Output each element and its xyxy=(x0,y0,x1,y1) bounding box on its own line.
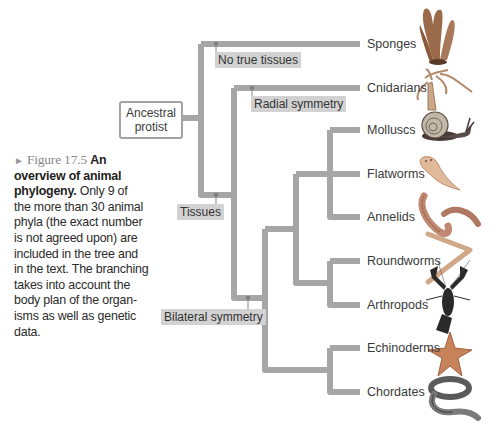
trait-bilateral-symmetry: Bilateral symmetry xyxy=(161,309,266,325)
caption-line: in the text. The branching xyxy=(14,262,176,278)
taxon-chordates: Chordates xyxy=(367,385,425,399)
caption-line: included in the tree and xyxy=(14,247,176,263)
caption-line-3-rest: Only 9 of xyxy=(76,184,127,198)
root-label-line1: Ancestral xyxy=(126,106,176,120)
triangle-marker-icon: ► xyxy=(14,155,24,166)
trait-radial-symmetry: Radial symmetry xyxy=(251,96,346,112)
taxon-annelids: Annelids xyxy=(367,210,415,224)
caption-line: body plan of the organ- xyxy=(14,293,176,309)
protostome-vertical xyxy=(296,174,330,283)
trait-no-true-tissues: No true tissues xyxy=(215,52,301,68)
taxon-sponges: Sponges xyxy=(367,37,416,51)
flatworm-icon xyxy=(420,157,460,190)
taxon-cnidarians: Cnidarians xyxy=(367,81,427,95)
taxon-flatworms: Flatworms xyxy=(367,167,425,181)
figure-label: ► Figure 17.5 xyxy=(14,152,87,167)
caption-line: takes into account the xyxy=(14,278,176,294)
caption-line: isms as well as genetic xyxy=(14,309,176,325)
lobster-icon xyxy=(426,260,470,334)
taxon-arthropods: Arthropods xyxy=(367,298,428,312)
earthworm-icon xyxy=(422,196,478,234)
snail-icon xyxy=(422,112,474,141)
caption-line: is not agreed upon) are xyxy=(14,231,176,247)
caption-title-part2: overview of animal xyxy=(14,169,176,185)
caption-line: the more than 30 animal xyxy=(14,200,176,216)
snake-icon xyxy=(431,379,478,418)
taxon-roundworms: Roundworms xyxy=(367,254,441,268)
taxon-molluscs: Molluscs xyxy=(367,123,416,137)
taxon-echinoderms: Echinoderms xyxy=(367,341,440,355)
deut-vertical xyxy=(330,348,360,392)
trait-tissues: Tissues xyxy=(177,204,224,220)
caption-line: data. xyxy=(14,325,176,341)
sponge-icon xyxy=(420,8,455,65)
tissues-vertical xyxy=(234,88,262,298)
caption-title-part1: An xyxy=(90,153,106,167)
figure-caption: ► Figure 17.5 An overview of animal phyl… xyxy=(14,152,176,340)
caption-line: phyla (the exact number xyxy=(14,215,176,231)
ecdy-vertical xyxy=(330,261,360,305)
root-label-line2: protist xyxy=(135,120,168,134)
ancestral-protist-node: Ancestral protist xyxy=(119,101,183,139)
caption-title-part3: phylogeny. xyxy=(14,184,76,198)
